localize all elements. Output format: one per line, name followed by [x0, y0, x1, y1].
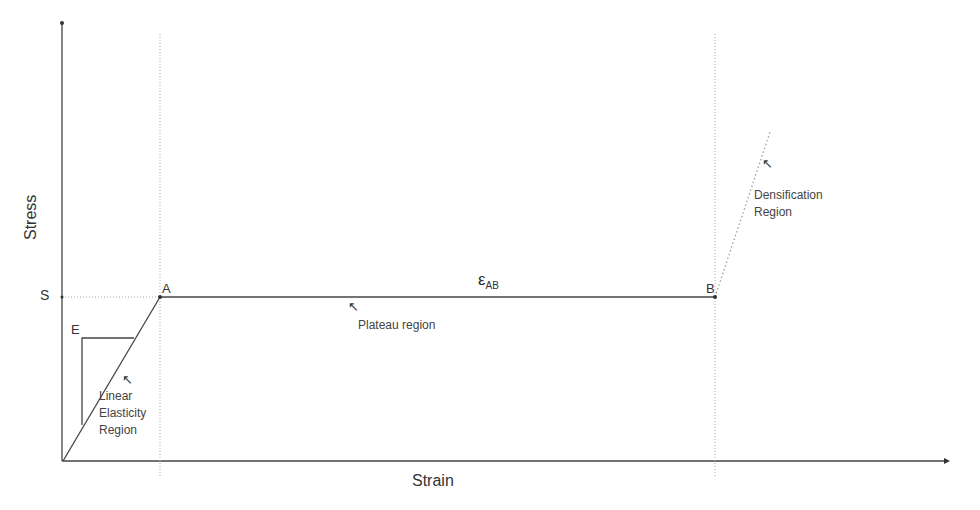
y-axis-label: Stress — [22, 195, 40, 240]
x-axis-label: Strain — [412, 472, 454, 490]
linear-region-line3: Region — [99, 422, 146, 439]
densification-region-label: Densification Region — [754, 187, 823, 221]
y-axis-arrow-icon — [60, 21, 64, 25]
point-b-label: B — [706, 281, 715, 296]
stress-strain-diagram — [0, 0, 980, 510]
linear-region-label: Linear Elasticity Region — [99, 388, 146, 439]
densification-pointer-icon: ↖ — [762, 156, 773, 171]
linear-pointer-icon: ↖ — [122, 372, 133, 387]
linear-region-line2: Elasticity — [99, 405, 146, 422]
plateau-pointer-icon: ↖ — [348, 299, 359, 314]
s-tick-marker — [61, 296, 64, 299]
point-a-label: A — [162, 281, 171, 296]
epsilon-subscript: AB — [486, 280, 499, 291]
epsilon-ab-label: εAB — [478, 270, 499, 291]
modulus-label: E — [71, 322, 80, 337]
linear-region-line1: Linear — [99, 388, 146, 405]
densification-line2: Region — [754, 204, 823, 221]
x-axis-arrow-icon — [944, 458, 950, 464]
s-level-label: S — [40, 287, 49, 303]
plateau-region-label: Plateau region — [358, 317, 435, 334]
densification-line1: Densification — [754, 187, 823, 204]
epsilon-symbol: ε — [478, 270, 486, 289]
